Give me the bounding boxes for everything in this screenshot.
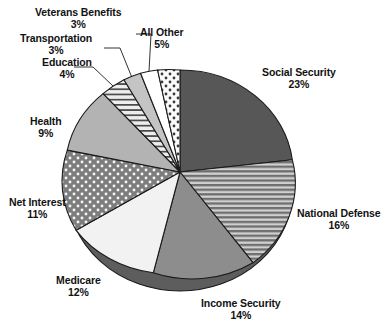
pie-slices (62, 69, 295, 278)
pie-chart-figure: Social Security 23% National Defense 16%… (0, 0, 389, 329)
pie-label-transportation-name: Transportation (20, 32, 92, 44)
pie-label-income-security: Income Security 14% (201, 297, 281, 322)
pie-label-social-security: Social Security 23% (262, 66, 336, 91)
pie-label-medicare-name: Medicare (56, 274, 101, 286)
pie-label-net-interest: Net Interest 11% (9, 196, 66, 221)
pie-label-medicare-value: 12% (56, 286, 101, 298)
pie-label-health: Health 9% (30, 115, 62, 140)
pie-label-national-defense-name: National Defense (297, 207, 381, 219)
pie-label-net-interest-value: 11% (9, 208, 66, 220)
pie-label-net-interest-name: Net Interest (9, 196, 66, 208)
pie-label-national-defense-value: 16% (297, 219, 381, 231)
pie-label-social-security-name: Social Security (262, 66, 336, 78)
leader-line-transportation (104, 48, 132, 77)
pie-label-all-other: All Other 5% (140, 26, 183, 51)
pie-label-education-name: Education (42, 56, 92, 68)
pie-label-all-other-name: All Other (140, 26, 183, 38)
pie-label-social-security-value: 23% (262, 78, 336, 90)
pie-label-transportation: Transportation 3% (20, 32, 92, 57)
pie-label-income-security-value: 14% (201, 309, 281, 321)
pie-label-medicare: Medicare 12% (56, 274, 101, 299)
pie-label-transportation-value: 3% (20, 44, 92, 56)
pie-label-veterans-benefits-value: 3% (35, 18, 121, 30)
pie-label-education-value: 4% (42, 68, 92, 80)
pie-label-veterans-benefits-name: Veterans Benefits (35, 6, 121, 18)
pie-label-all-other-value: 5% (140, 38, 183, 50)
pie-label-national-defense: National Defense 16% (297, 207, 381, 232)
pie-label-veterans-benefits: Veterans Benefits 3% (35, 6, 121, 31)
pie-label-income-security-name: Income Security (201, 297, 281, 309)
pie-label-health-value: 9% (30, 127, 62, 139)
pie-label-health-name: Health (30, 115, 62, 127)
pie-label-education: Education 4% (42, 56, 92, 81)
